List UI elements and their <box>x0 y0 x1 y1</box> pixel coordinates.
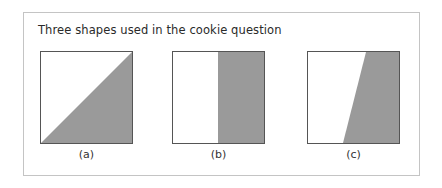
shape-b-vertical-split <box>172 51 265 144</box>
shape-b-label: (b) <box>172 148 265 161</box>
figure-caption: Three shapes used in the cookie question <box>38 23 282 37</box>
shape-c-label: (c) <box>307 148 400 161</box>
shape-c-slanted <box>307 51 400 144</box>
shape-a-diagonal <box>40 51 133 144</box>
shape-a-label: (a) <box>40 148 133 161</box>
